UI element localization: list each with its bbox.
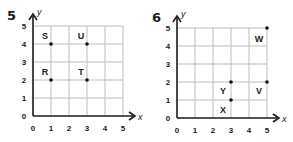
x-tick-label: 2 <box>211 126 216 135</box>
x-tick-label: 2 <box>67 124 72 133</box>
x-tick-label: 3 <box>85 124 90 133</box>
graph-6-plot: xy012345012345WYVX <box>146 0 293 142</box>
point-label: R <box>42 67 49 77</box>
point-label: V <box>256 86 262 96</box>
data-point <box>85 42 89 46</box>
y-tick-label: 0 <box>166 114 171 123</box>
x-tick-label: 3 <box>229 126 234 135</box>
y-tick-label: 3 <box>166 60 171 69</box>
y-tick-label: 5 <box>166 24 171 33</box>
x-tick-label: 5 <box>121 124 126 133</box>
point-label: S <box>42 31 48 41</box>
data-point <box>85 78 89 82</box>
data-point <box>229 80 233 84</box>
point-label: U <box>78 31 85 41</box>
x-tick-label: 4 <box>247 126 252 135</box>
point-label: Y <box>220 86 226 96</box>
y-tick-label: 0 <box>22 112 27 121</box>
x-tick-label: 4 <box>103 124 108 133</box>
point-label: T <box>78 67 84 77</box>
graph-5-panel: 5 xy012345012345SURT <box>0 0 146 142</box>
y-tick-label: 1 <box>22 94 27 103</box>
point-label: W <box>255 34 264 44</box>
x-tick-label: 1 <box>49 124 54 133</box>
x-tick-label: 0 <box>31 124 36 133</box>
y-tick-label: 4 <box>166 42 171 51</box>
data-point <box>49 42 53 46</box>
data-point <box>265 80 269 84</box>
x-tick-label: 5 <box>265 126 270 135</box>
data-point <box>229 98 233 102</box>
x-axis-label: x <box>281 114 287 124</box>
graph-5-plot: xy012345012345SURT <box>0 0 146 142</box>
y-tick-label: 3 <box>22 58 27 67</box>
x-tick-label: 1 <box>193 126 198 135</box>
y-tick-label: 2 <box>22 76 27 85</box>
data-point <box>265 26 269 30</box>
x-axis-label: x <box>137 112 143 122</box>
y-axis-label: y <box>180 9 186 19</box>
data-point <box>49 78 53 82</box>
y-axis-label: y <box>36 7 42 17</box>
y-tick-label: 5 <box>22 22 27 31</box>
point-label: X <box>220 105 226 115</box>
y-tick-label: 1 <box>166 96 171 105</box>
y-tick-label: 2 <box>166 78 171 87</box>
x-tick-label: 0 <box>175 126 180 135</box>
y-tick-label: 4 <box>22 40 27 49</box>
graph-6-panel: 6 xy012345012345WYVX <box>146 0 292 142</box>
